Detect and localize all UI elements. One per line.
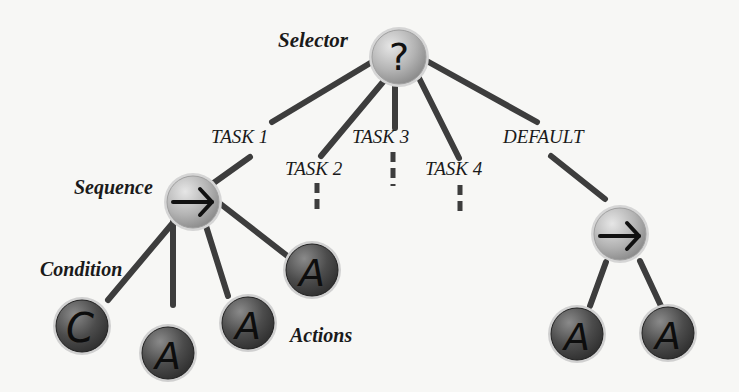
edge-selector-task4	[416, 72, 459, 158]
sequence-label: Sequence	[74, 176, 153, 199]
selector-node: ?	[369, 27, 429, 87]
action-a-glyph: A	[561, 315, 590, 359]
edge-sequence-action3	[218, 202, 290, 258]
action-a-glyph: A	[232, 304, 261, 348]
edge-rseq-action4	[590, 262, 606, 306]
action-node-1: A	[139, 324, 197, 382]
question-mark-icon: ?	[389, 35, 409, 79]
condition-node: C	[53, 297, 111, 355]
task4-label: TASK 4	[425, 158, 482, 180]
edge-selector-default	[425, 60, 537, 122]
task2-label: TASK 2	[285, 158, 342, 180]
edge-rseq-action5	[640, 261, 661, 306]
action-a-glyph: A	[152, 334, 181, 378]
condition-c-glyph: C	[66, 305, 94, 351]
behavior-tree-diagram: ? C A	[0, 0, 739, 392]
sequence-node-right	[591, 205, 649, 263]
condition-label: Condition	[40, 258, 122, 281]
action-a-glyph: A	[652, 314, 681, 358]
action-node-5: A	[639, 304, 697, 362]
edge-sequence-action2	[206, 226, 228, 296]
task3-label: TASK 3	[352, 126, 409, 148]
action-a-glyph: A	[296, 251, 325, 295]
action-node-2: A	[219, 294, 277, 352]
default-label: DEFAULT	[503, 126, 584, 148]
sequence-node-left	[164, 173, 222, 231]
selector-label: Selector	[278, 28, 348, 53]
task1-label: TASK 1	[211, 126, 268, 148]
action-node-3: A	[283, 241, 341, 299]
actions-label: Actions	[290, 324, 352, 347]
edge-default-sequence	[551, 156, 605, 199]
action-node-4: A	[548, 305, 606, 363]
